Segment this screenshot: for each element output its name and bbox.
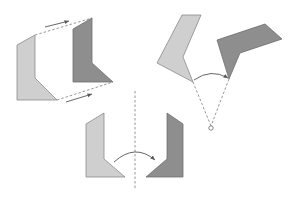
rotation-arc-arrow-icon: [194, 73, 228, 80]
translated-shape: [73, 18, 113, 82]
reflection-arc-arrow-icon: [114, 152, 155, 162]
original-shape-reflection: [86, 113, 125, 177]
rotation-radius-1: [193, 82, 211, 126]
translation-guide-bottom: [57, 82, 113, 100]
original-shape: [17, 35, 57, 100]
translation-arrow-bottom-icon: [66, 94, 92, 102]
reflected-shape: [146, 113, 183, 177]
rotated-shape: [217, 24, 282, 79]
rotation-radius-2: [211, 79, 229, 126]
reflection-panel: [86, 91, 183, 190]
translation-panel: [17, 18, 113, 102]
original-shape-rotation: [157, 15, 201, 82]
transformations-diagram: [0, 0, 297, 199]
rotation-panel: [157, 15, 282, 130]
diagram-canvas: [0, 0, 297, 199]
rotation-center-point: [209, 126, 213, 130]
